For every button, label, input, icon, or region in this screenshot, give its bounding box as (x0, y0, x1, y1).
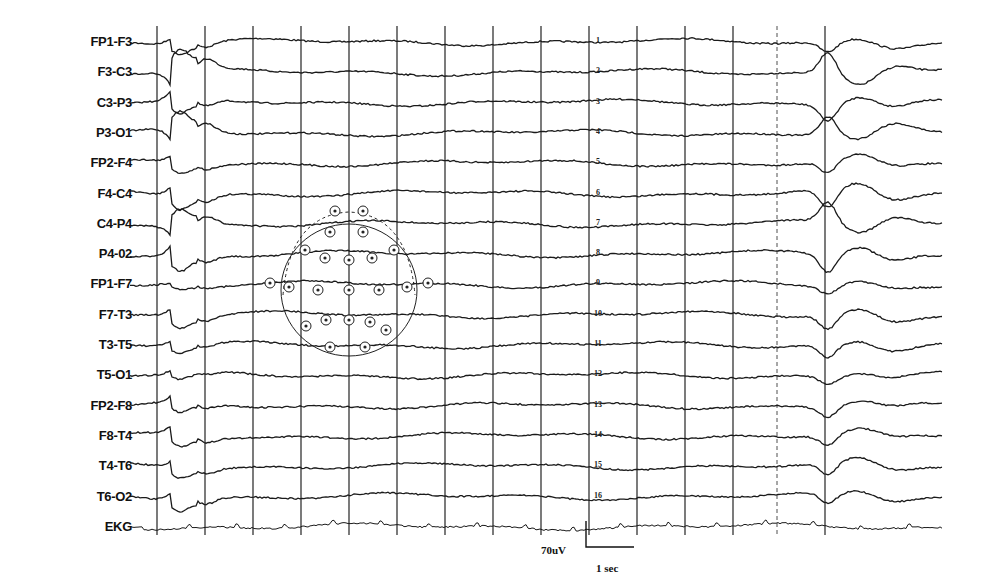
amplitude-scale-label: 70uV (541, 544, 566, 556)
channel-label: P3-O1 (96, 125, 132, 141)
eeg-trace (130, 49, 942, 85)
channel-number: 12 (594, 369, 602, 378)
channel-label: C4-P4 (97, 216, 132, 232)
eeg-trace (130, 246, 942, 272)
eeg-trace (130, 92, 942, 122)
channel-number: 9 (596, 278, 600, 287)
channel-label: FP2-F8 (90, 398, 132, 414)
channel-label: T3-T5 (99, 337, 132, 353)
channel-number: 16 (594, 490, 602, 499)
channel-number: 3 (596, 96, 600, 105)
channel-number: 1 (596, 36, 600, 45)
eeg-trace (130, 427, 942, 447)
channel-label: C3-P3 (97, 95, 132, 111)
channel-label: FP1-F3 (90, 34, 132, 50)
channel-label: FP1-F7 (90, 276, 132, 292)
channel-number: 11 (594, 339, 602, 348)
eeg-trace (130, 183, 942, 210)
eeg-trace (130, 154, 942, 173)
channel-number: 7 (596, 217, 600, 226)
eeg-trace (130, 396, 942, 418)
channel-number: 10 (594, 308, 602, 317)
channel-number: 4 (596, 126, 600, 135)
channel-label: F7-T3 (99, 307, 132, 323)
channel-number: 8 (596, 248, 600, 257)
channel-label: FP2-F4 (90, 155, 132, 171)
channel-label: F4-C4 (97, 186, 132, 202)
channel-label: T6-O2 (97, 489, 132, 505)
channel-label: F3-C3 (97, 64, 132, 80)
eeg-trace (130, 371, 942, 385)
channel-label: P4-02 (99, 246, 132, 262)
scale-bar (586, 521, 634, 547)
time-scale-label: 1 sec (596, 562, 618, 574)
eeg-trace (130, 309, 942, 329)
channel-label: T5-O1 (97, 367, 132, 383)
eeg-trace (130, 458, 942, 479)
channel-label: EKG (105, 519, 132, 535)
channel-number: 15 (594, 460, 602, 469)
eeg-traces-plot (0, 0, 989, 577)
eeg-trace (130, 491, 942, 513)
channel-number: 2 (596, 66, 600, 75)
channel-label: F8-T4 (99, 428, 132, 444)
eeg-figure: FP1-F3F3-C3C3-P3P3-O1FP2-F4F4-C4C4-P4P4-… (0, 0, 989, 577)
channel-number: 13 (594, 399, 602, 408)
eeg-trace (130, 341, 942, 358)
channel-number: 5 (596, 157, 600, 166)
channel-number: 14 (594, 429, 602, 438)
eeg-trace (130, 520, 942, 531)
channel-number: 6 (596, 187, 600, 196)
channel-label: T4-T6 (99, 458, 132, 474)
eeg-trace (130, 202, 942, 235)
eeg-trace (130, 38, 942, 55)
eeg-trace (130, 280, 942, 294)
